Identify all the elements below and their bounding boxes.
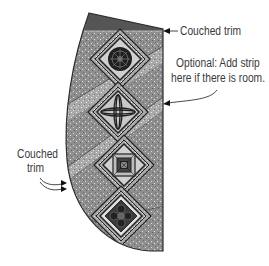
couched-trim-left-arrows [40,178,67,192]
couched-trim-top-arrow [163,28,178,34]
quilt-panel-diagram [0,0,269,266]
quilt-panel [55,10,170,255]
optional-strip-label-line1: Optional: Add strip [176,56,260,70]
top-band [84,13,163,31]
optional-strip-label-line2: here if there is room. [171,71,265,85]
couched-trim-left-label-line2: trim [27,161,44,175]
couched-trim-left-label-line1: Couched [17,147,58,161]
optional-strip-arrow [163,90,217,106]
couched-trim-top-label: Couched trim [180,24,241,38]
